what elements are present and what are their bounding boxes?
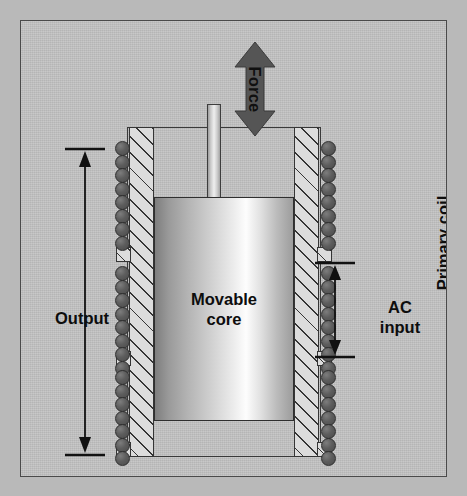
coil-winding bbox=[115, 141, 130, 156]
coil-winding bbox=[115, 370, 130, 385]
lvdt-diagram: Movable core Force Output bbox=[0, 0, 467, 496]
coil-winding bbox=[115, 266, 130, 281]
movable-core-label-line1: Movable bbox=[191, 289, 257, 309]
ac-input-label-line2: input bbox=[369, 317, 431, 337]
coil-column-left-lower bbox=[114, 370, 131, 465]
movable-core-label: Movable core bbox=[155, 198, 293, 420]
coil-winding bbox=[321, 222, 336, 237]
coil-winding bbox=[321, 397, 336, 412]
coil-winding bbox=[115, 347, 130, 362]
coil-winding bbox=[321, 195, 336, 210]
coil-winding bbox=[321, 451, 336, 466]
coil-winding bbox=[115, 168, 130, 183]
ac-input-label-line1: AC bbox=[369, 297, 431, 317]
movable-core-label-line2: core bbox=[207, 309, 242, 329]
coil-winding bbox=[321, 168, 336, 183]
output-dimension-arrow bbox=[65, 147, 105, 457]
coil-winding bbox=[321, 236, 336, 251]
coil-winding bbox=[115, 451, 130, 466]
coil-column-right-lower bbox=[320, 370, 337, 465]
coil-winding bbox=[115, 195, 130, 210]
coil-winding bbox=[321, 141, 336, 156]
coil-winding bbox=[115, 320, 130, 335]
coil-winding bbox=[115, 293, 130, 308]
output-label: Output bbox=[51, 308, 113, 328]
force-label: Force bbox=[233, 41, 277, 137]
ac-input-label: AC input bbox=[369, 297, 431, 337]
coil-winding bbox=[321, 370, 336, 385]
coil-column-right-upper bbox=[320, 141, 337, 249]
coil-winding bbox=[115, 424, 130, 439]
coil-winding bbox=[115, 397, 130, 412]
coil-winding bbox=[321, 424, 336, 439]
coil-winding bbox=[115, 222, 130, 237]
ac-input-dimension-arrow bbox=[315, 261, 355, 359]
coil-winding bbox=[115, 236, 130, 251]
movable-core: Movable core bbox=[154, 197, 294, 421]
coil-column-left-middle bbox=[114, 266, 131, 374]
primary-coil-label: Primary coil bbox=[431, 173, 447, 313]
diagram-frame: Movable core Force Output bbox=[20, 20, 447, 477]
coil-column-left-upper bbox=[114, 141, 131, 249]
bobbin-wall-left bbox=[129, 127, 154, 457]
core-shaft-rod bbox=[207, 104, 221, 200]
